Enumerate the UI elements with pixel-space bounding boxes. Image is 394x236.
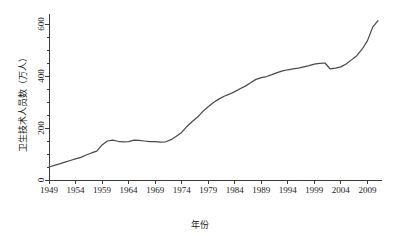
- data-series: [49, 21, 378, 167]
- y-tick-label: 200: [36, 121, 46, 135]
- y-axis-title: 卫生技术人员数（万人）: [17, 53, 28, 152]
- x-tick-label: 1969: [146, 185, 165, 195]
- x-tick-label: 1994: [279, 185, 298, 195]
- x-tick-labels: 1949195419591964196919741979198419891994…: [40, 185, 377, 195]
- y-tick-label: 0: [36, 177, 46, 182]
- axis-ticks: [45, 24, 367, 184]
- x-tick-label: 1949: [40, 185, 59, 195]
- x-axis-title: 年份: [191, 219, 209, 230]
- y-tick-label: 600: [36, 17, 46, 31]
- y-tick-label: 400: [36, 69, 46, 83]
- series-line-0: [49, 21, 378, 167]
- line-chart: 1949195419591964196919741979198419891994…: [0, 0, 394, 236]
- x-tick-label: 2004: [332, 185, 351, 195]
- x-tick-label: 1959: [93, 185, 112, 195]
- x-tick-label: 1979: [199, 185, 218, 195]
- x-tick-label: 1999: [305, 185, 324, 195]
- chart-container: 1949195419591964196919741979198419891994…: [0, 0, 394, 236]
- x-tick-label: 1984: [226, 185, 245, 195]
- x-tick-label: 2009: [358, 185, 377, 195]
- x-tick-label: 1974: [173, 185, 192, 195]
- axes: [49, 14, 382, 180]
- x-tick-label: 1989: [252, 185, 271, 195]
- x-tick-label: 1964: [120, 185, 139, 195]
- x-tick-label: 1954: [67, 185, 86, 195]
- y-tick-labels: 0200400600: [36, 17, 46, 183]
